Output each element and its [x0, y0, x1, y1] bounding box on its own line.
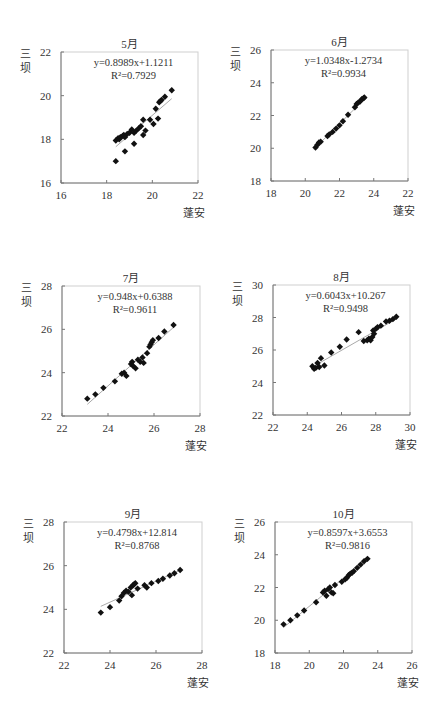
- y-tick-label: 28: [43, 516, 55, 528]
- data-point: [113, 158, 119, 164]
- y-tick-label: 24: [41, 367, 53, 379]
- x-tick-label: 18: [266, 187, 278, 199]
- data-point: [84, 395, 90, 401]
- x-tick-label: 28: [195, 422, 207, 434]
- y-tick-label: 20: [254, 614, 266, 626]
- x-tick-label: 26: [151, 659, 163, 671]
- x-tick-label: 22: [57, 422, 68, 434]
- y-axis-label-char: 三: [234, 518, 245, 530]
- y-axis-label-char: 三: [20, 48, 31, 60]
- data-point: [313, 599, 319, 605]
- trend-line: [312, 319, 396, 367]
- x-axis-label: 蓬安: [183, 206, 205, 219]
- y-tick-label: 22: [254, 582, 265, 594]
- y-tick-label: 22: [43, 647, 54, 659]
- x-tick-label: 26: [149, 422, 161, 434]
- r-squared: R²=0.9934: [321, 68, 367, 79]
- regression-equation: y=1.0348x-1.2734: [305, 55, 383, 66]
- y-tick-label: 24: [250, 77, 262, 89]
- scatter-panel-5: 22242628222426289月三坝蓬安y=0.4798x+12.814R²…: [23, 508, 210, 689]
- scatter-panel-4: 222426283022242628308月三坝蓬安y=0.6043x+10.2…: [232, 271, 418, 451]
- x-tick-label: 24: [368, 187, 380, 199]
- data-point: [107, 604, 113, 610]
- data-point: [177, 567, 183, 573]
- r-squared: R²=0.7929: [111, 70, 156, 81]
- y-axis-label-char: 坝: [230, 59, 241, 72]
- x-axis-label: 蓬安: [393, 204, 415, 217]
- data-point: [148, 580, 154, 586]
- data-point: [280, 621, 286, 627]
- data-point: [92, 391, 98, 397]
- y-axis-label-char: 坝: [21, 295, 32, 308]
- y-tick-label: 26: [41, 323, 53, 335]
- chart-title: 8月: [333, 271, 350, 283]
- y-tick-label: 22: [40, 46, 51, 58]
- x-tick-label: 22: [334, 187, 345, 199]
- x-tick-label: 20: [300, 187, 312, 199]
- data-point: [98, 609, 104, 615]
- x-tick-label: 16: [56, 189, 68, 201]
- x-tick-label: 26: [407, 659, 419, 671]
- x-tick-label: 24: [302, 421, 314, 433]
- data-point: [321, 362, 327, 368]
- y-tick-label: 28: [41, 280, 53, 292]
- r-squared: R²=0.9498: [323, 303, 368, 314]
- y-axis-label-char: 三: [23, 518, 34, 530]
- x-tick-label: 20: [338, 659, 350, 671]
- x-tick-label: 18: [101, 189, 113, 201]
- x-tick-label: 20: [147, 189, 159, 201]
- y-tick-label: 22: [250, 110, 261, 122]
- x-tick-label: 18: [270, 659, 282, 671]
- data-point: [155, 115, 161, 121]
- y-axis-label-char: 三: [230, 46, 241, 58]
- data-point: [150, 121, 156, 127]
- chart-title: 10月: [333, 508, 355, 520]
- data-point: [140, 116, 146, 122]
- r-squared: R²=0.9816: [325, 540, 370, 551]
- regression-equation: y=0.948x+0.6388: [98, 291, 173, 302]
- charts-canvas: 16182022161820225月三坝蓬安y=0.8989x+1.1211R²…: [0, 0, 434, 721]
- data-point: [169, 87, 175, 93]
- x-axis-label: 蓬安: [397, 676, 419, 689]
- x-tick-label: 20: [304, 659, 316, 671]
- y-tick-label: 24: [43, 603, 55, 615]
- chart-title: 9月: [125, 508, 142, 520]
- data-point: [287, 617, 293, 623]
- data-point: [355, 329, 361, 335]
- x-tick-label: 24: [105, 659, 117, 671]
- y-tick-label: 26: [254, 516, 266, 528]
- x-tick-label: 22: [59, 659, 70, 671]
- y-tick-label: 26: [252, 344, 264, 356]
- y-axis-label-char: 三: [232, 281, 243, 293]
- data-point: [170, 322, 176, 328]
- y-tick-label: 30: [252, 279, 264, 291]
- y-tick-label: 18: [40, 133, 52, 145]
- x-axis-label: 蓬安: [395, 438, 417, 451]
- data-point: [155, 335, 161, 341]
- data-point: [131, 141, 137, 147]
- x-tick-label: 26: [336, 421, 348, 433]
- y-tick-label: 22: [252, 409, 263, 421]
- data-point: [343, 336, 349, 342]
- data-point: [144, 350, 150, 356]
- x-tick-label: 24: [372, 659, 384, 671]
- y-tick-label: 18: [250, 175, 262, 187]
- y-tick-label: 18: [254, 647, 266, 659]
- x-tick-label: 28: [197, 659, 209, 671]
- chart-title: 7月: [123, 272, 140, 284]
- x-axis-label: 蓬安: [185, 439, 207, 452]
- scatter-panel-6: 1820222426182020242610月三坝蓬安y=0.8597x+3.6…: [234, 508, 420, 689]
- scatter-panel-3: 22242628222426287月三坝蓬安y=0.948x+0.6388R²=…: [21, 272, 208, 452]
- y-tick-label: 26: [250, 44, 262, 56]
- chart-title: 6月: [331, 36, 348, 48]
- scatter-panel-1: 16182022161820225月三坝蓬安y=0.8989x+1.1211R²…: [20, 38, 206, 219]
- y-axis-label-char: 坝: [20, 61, 31, 74]
- y-tick-label: 26: [43, 560, 55, 572]
- y-tick-label: 16: [40, 177, 52, 189]
- y-axis-label-char: 坝: [234, 531, 245, 544]
- regression-equation: y=0.8597x+3.6553: [307, 527, 387, 538]
- x-tick-label: 24: [103, 422, 115, 434]
- data-point: [337, 344, 343, 350]
- x-tick-label: 22: [268, 421, 279, 433]
- scatter-panel-2: 182022242618202224226月三坝蓬安y=1.0348x-1.27…: [230, 36, 416, 217]
